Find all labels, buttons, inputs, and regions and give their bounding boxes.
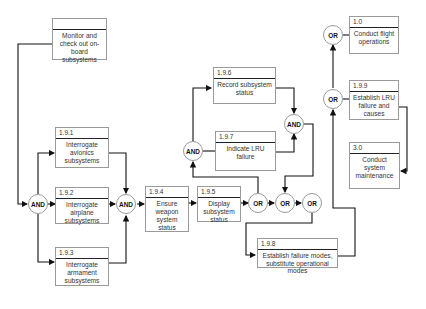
- block-label: Monitor and check out on-board subsystem…: [53, 30, 106, 64]
- block-label: Display subsystem status: [198, 198, 240, 224]
- block-number: 1.9.1: [56, 128, 108, 139]
- block-label: Conduct system maintenance: [350, 154, 399, 180]
- block-1-9-2[interactable]: 1.9.2 Interrogate airplane subsystems: [55, 187, 109, 224]
- block-monitor[interactable]: Monitor and check out on-board subsystem…: [52, 18, 107, 60]
- block-1-9-3[interactable]: 1.9.3 Interrogate armament subsystems: [55, 247, 109, 286]
- block-number: 1.9.8: [258, 239, 337, 250]
- block-label: Interrogate airplane subsystems: [56, 199, 108, 225]
- block-1-9-4[interactable]: 1.9.4 Ensure weapon system status: [145, 186, 189, 232]
- block-label: Ensure weapon system status: [146, 198, 188, 232]
- and-gate-2: AND: [116, 194, 136, 214]
- or-gate-4: OR: [323, 25, 343, 45]
- block-1-0[interactable]: 1.0 Conduct flight operations: [349, 16, 399, 54]
- block-label: Interrogate armament subsystems: [56, 259, 108, 285]
- or-gate-2: OR: [275, 193, 295, 213]
- block-1-9-7[interactable]: 1.9.7 Indicate LRU failure: [215, 131, 276, 171]
- block-number: 1.9.9: [350, 81, 398, 92]
- block-number: 3.0: [350, 143, 399, 154]
- block-label: Indicate LRU failure: [216, 143, 275, 161]
- block-number: 1.9.5: [198, 187, 240, 198]
- block-number: 1.9.6: [214, 68, 275, 79]
- block-number: 1.9.2: [56, 188, 108, 199]
- block-label: Record subsystem status: [214, 79, 275, 97]
- block-label: Establish failure modes, substitute oper…: [258, 250, 337, 275]
- block-1-9-5[interactable]: 1.9.5 Display subsystem status: [197, 186, 241, 222]
- or-gate-3: OR: [302, 193, 322, 213]
- block-label: Conduct flight operations: [350, 28, 398, 46]
- block-number: 1.9.3: [56, 248, 108, 259]
- and-gate-1: AND: [28, 194, 48, 214]
- block-1-9-6[interactable]: 1.9.6 Record subsystem status: [213, 67, 276, 104]
- or-gate-5: OR: [323, 89, 343, 109]
- block-1-9-9[interactable]: 1.9.9 Establish LRU failure and causes: [349, 80, 399, 120]
- and-gate-4: AND: [284, 114, 304, 134]
- block-number: 1.0: [350, 17, 398, 28]
- block-label: Interrogate avionics subsystems: [56, 139, 108, 165]
- block-number: 1.9.7: [216, 132, 275, 143]
- block-label: Establish LRU failure and causes: [350, 92, 398, 118]
- and-gate-3: AND: [183, 141, 203, 161]
- block-number: 1.9.4: [146, 187, 188, 198]
- block-number: [53, 19, 106, 30]
- block-1-9-1[interactable]: 1.9.1 Interrogate avionics subsystems: [55, 127, 109, 168]
- or-gate-1: OR: [248, 193, 268, 213]
- block-1-9-8[interactable]: 1.9.8 Establish failure modes, substitut…: [257, 238, 338, 268]
- block-3-0[interactable]: 3.0 Conduct system maintenance: [349, 142, 400, 189]
